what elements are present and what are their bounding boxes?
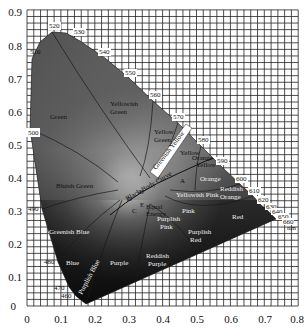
- y-tick: 0.2: [8, 238, 22, 250]
- region-purplish-pink: Pink: [160, 223, 173, 231]
- wavelength-label: 470: [54, 284, 65, 292]
- y-axis-ticks: 0 0.1 0.2 0.3 0.4 0.5 0.6 0.7 0.8 0.9: [8, 6, 22, 312]
- wavelength-label: 520: [49, 22, 60, 30]
- cie-chromaticity-chart: 0 0.1 0.2 0.3 0.4 0.5 0.6 0.7 0.8 0 0.1 …: [0, 0, 307, 329]
- x-tick: 0.7: [258, 313, 272, 325]
- point-e: E: [140, 201, 144, 209]
- wavelength-label: 460: [61, 292, 72, 300]
- region-red: Red: [232, 213, 244, 221]
- region-yellowish-green: Green: [110, 108, 128, 116]
- point-c: C: [132, 207, 137, 215]
- x-tick: 0.6: [224, 313, 238, 325]
- wavelength-label: 480: [44, 258, 55, 266]
- region-pink: Pink: [182, 207, 195, 215]
- wavelength-label: 600: [236, 175, 247, 183]
- wavelength-label: 500: [28, 129, 39, 137]
- wavelength-label: 560: [150, 91, 161, 99]
- wavelength-label: 540: [99, 48, 110, 56]
- y-tick: 0.1: [8, 271, 22, 283]
- x-tick: 0.5: [190, 313, 204, 325]
- y-tick: 0.8: [8, 40, 22, 52]
- x-tick: 0.4: [156, 313, 170, 325]
- x-tick: 0.2: [88, 313, 102, 325]
- point-a: A: [180, 177, 185, 185]
- region-yellowish-pink: Yellowish Pink: [176, 191, 219, 199]
- y-tick: 0.5: [8, 139, 22, 151]
- region-reddish-orange: Reddish: [220, 185, 243, 193]
- wavelength-label: nm: [287, 224, 297, 232]
- region-reddish-purple: Reddish: [146, 252, 169, 260]
- wavelength-label: 530: [74, 28, 85, 36]
- y-tick: 0.6: [8, 106, 22, 118]
- wavelength-label: 590: [217, 157, 228, 165]
- region-purplish-red: Purplish: [188, 228, 212, 236]
- region-reddish-purple: Purple: [148, 260, 166, 268]
- region-blue: Blue: [66, 259, 79, 267]
- y-tick: 0.3: [8, 205, 22, 217]
- x-tick: 0.8: [290, 313, 304, 325]
- wavelength-label: 570: [173, 113, 184, 121]
- point-d: D: [127, 195, 132, 203]
- region-reddish-orange: Orange: [220, 193, 241, 201]
- region-green: Green: [50, 113, 68, 121]
- y-tick: 0.4: [8, 172, 22, 184]
- wavelength-label: 510: [30, 48, 41, 56]
- point-b: B: [139, 188, 144, 196]
- x-axis-ticks: 0 0.1 0.2 0.3 0.4 0.5 0.6 0.7 0.8: [24, 313, 304, 325]
- x-tick: 0: [24, 313, 30, 325]
- wavelength-label: 610: [249, 187, 260, 195]
- region-purple: Purple: [110, 259, 128, 267]
- region-equal-energy: Energy: [146, 210, 167, 218]
- y-tick: 0.7: [8, 73, 22, 85]
- region-yellowish-orange: Yellow: [196, 161, 217, 169]
- y-tick: 0: [11, 300, 17, 312]
- x-tick: 0.3: [122, 313, 136, 325]
- region-yellow-green: Yellow: [154, 128, 175, 136]
- x-tick: 0.1: [54, 313, 68, 325]
- region-yellowish-green: Yellowish: [110, 100, 139, 108]
- region-greenish-blue: Greenish Blue: [49, 228, 89, 236]
- region-orange: Orange: [200, 175, 221, 183]
- wavelength-label: 580: [198, 136, 209, 144]
- wavelength-label: 550: [125, 69, 136, 77]
- region-purplish-red: Red: [190, 236, 202, 244]
- region-bluish-green: Bluish Green: [56, 182, 94, 190]
- wavelength-label: 490: [28, 205, 39, 213]
- y-tick: 0.9: [8, 6, 22, 18]
